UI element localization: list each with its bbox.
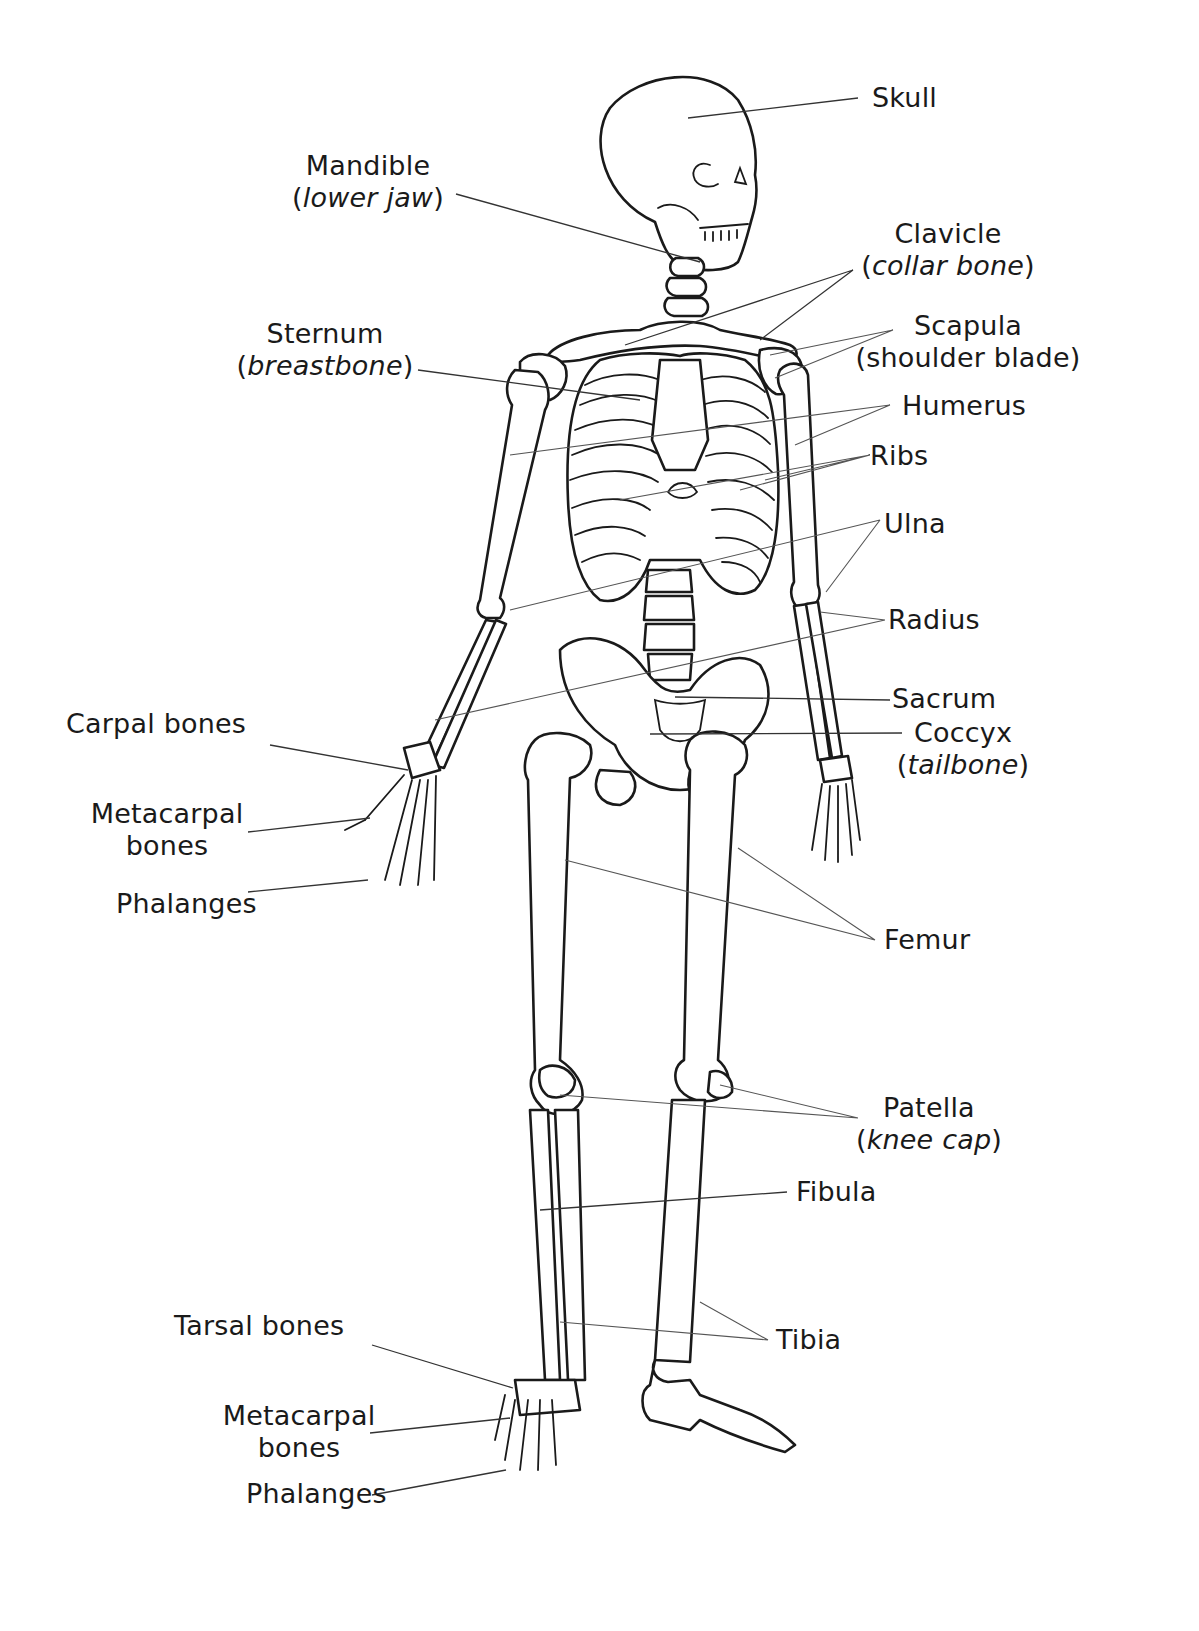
- label-tibia: Tibia: [776, 1324, 841, 1356]
- label-sternum: Sternum (breastbone): [225, 318, 425, 382]
- label-radius: Radius: [888, 604, 980, 636]
- label-skull: Skull: [872, 82, 937, 114]
- label-fibula: Fibula: [796, 1176, 877, 1208]
- cervical-spine-drawing: [665, 258, 708, 316]
- label-clavicle: Clavicle (collar bone): [848, 218, 1048, 282]
- right-leg-drawing: [495, 733, 591, 1470]
- label-phalanges-hand: Phalanges: [116, 888, 257, 920]
- left-arm-drawing: [778, 364, 860, 862]
- skeleton-diagram: Skull Mandible (lower jaw) Clavicle (col…: [0, 0, 1199, 1631]
- label-metacarpal-foot: Metacarpal bones: [214, 1400, 384, 1464]
- label-coccyx: Coccyx (tailbone): [888, 717, 1038, 781]
- label-carpal-bones: Carpal bones: [66, 708, 246, 740]
- label-metacarpal-hand: Metacarpal bones: [82, 798, 252, 862]
- label-scapula: Scapula (shoulder blade): [838, 310, 1098, 374]
- right-arm-drawing: [345, 370, 549, 885]
- label-patella: Patella (knee cap): [844, 1092, 1014, 1156]
- label-sacrum: Sacrum: [892, 683, 996, 715]
- label-mandible: Mandible (lower jaw): [278, 150, 458, 214]
- label-femur: Femur: [884, 924, 970, 956]
- label-tarsal-bones: Tarsal bones: [174, 1310, 344, 1342]
- label-phalanges-foot: Phalanges: [246, 1478, 387, 1510]
- label-ulna: Ulna: [884, 508, 946, 540]
- label-humerus: Humerus: [902, 390, 1026, 422]
- lumbar-spine-drawing: [644, 570, 694, 680]
- label-ribs: Ribs: [870, 440, 928, 472]
- left-leg-drawing: [643, 732, 796, 1452]
